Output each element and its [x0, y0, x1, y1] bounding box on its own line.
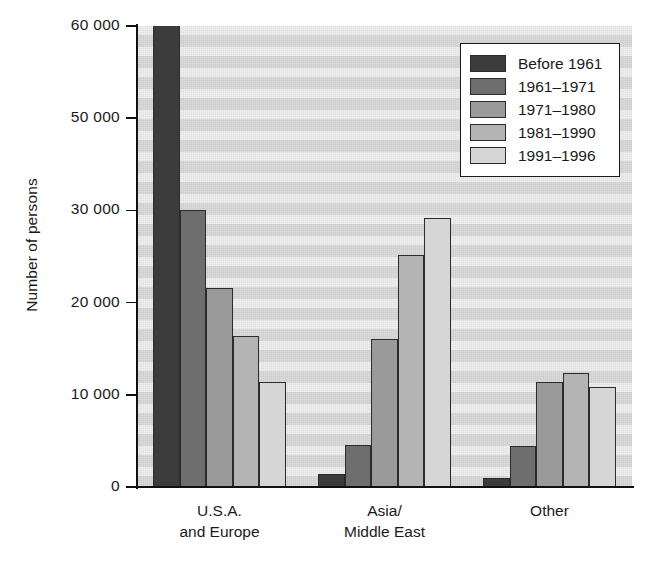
bar	[233, 336, 260, 487]
y-axis-tick-label: 0	[34, 477, 120, 495]
x-axis-category-label: U.S.A.and Europe	[125, 500, 315, 542]
x-axis-category-label-line: Middle East	[290, 521, 480, 542]
y-axis-tick-label: 50 000	[34, 108, 120, 126]
bar	[371, 339, 398, 487]
bar	[424, 218, 451, 487]
bar	[153, 26, 180, 487]
bar	[398, 255, 425, 487]
legend-swatch	[470, 147, 506, 164]
bar	[510, 446, 537, 487]
y-axis-tick	[126, 117, 137, 119]
legend-item: 1961–1971	[470, 75, 610, 98]
x-axis-category-label-line: Other	[455, 500, 645, 521]
y-axis-tick-label: 60 000	[34, 16, 120, 34]
y-axis-tick	[126, 394, 137, 396]
legend-swatch	[470, 78, 506, 95]
y-axis-tick	[126, 25, 137, 27]
bar	[563, 373, 590, 487]
legend-label: 1971–1980	[518, 101, 596, 119]
legend-label: 1961–1971	[518, 78, 596, 96]
legend-item: 1991–1996	[470, 144, 610, 167]
bar	[345, 445, 372, 487]
y-axis-line	[136, 24, 138, 489]
legend-label: 1991–1996	[518, 147, 596, 165]
legend-item: 1971–1980	[470, 98, 610, 121]
bar	[589, 387, 616, 487]
x-axis-category-label-line: U.S.A.	[125, 500, 315, 521]
legend-swatch	[470, 101, 506, 118]
bar	[180, 210, 207, 487]
x-axis-line	[126, 486, 634, 488]
y-axis-tick	[126, 210, 137, 212]
legend-label: 1981–1990	[518, 124, 596, 142]
y-axis-tick-label: 30 000	[34, 200, 120, 218]
legend-item: 1981–1990	[470, 121, 610, 144]
y-axis-title: Number of persons	[23, 125, 41, 365]
x-axis-category-label: Other	[455, 500, 645, 521]
x-axis-category-label: Asia/Middle East	[290, 500, 480, 542]
bar-chart: Number of persons 010 00020 00030 00050 …	[0, 0, 656, 571]
y-axis-tick-label: 20 000	[34, 293, 120, 311]
legend-label: Before 1961	[518, 55, 602, 73]
legend: Before 19611961–19711971–19801981–199019…	[460, 43, 620, 177]
y-axis-tick	[126, 486, 137, 488]
bar	[206, 288, 233, 487]
x-axis-category-label-line: Asia/	[290, 500, 480, 521]
bar	[259, 382, 286, 487]
y-axis-tick-label: 10 000	[34, 385, 120, 403]
x-axis-category-label-line: and Europe	[125, 521, 315, 542]
bar	[536, 382, 563, 487]
y-axis-tick	[126, 302, 137, 304]
legend-swatch	[470, 55, 506, 72]
legend-swatch	[470, 124, 506, 141]
legend-item: Before 1961	[470, 52, 610, 75]
